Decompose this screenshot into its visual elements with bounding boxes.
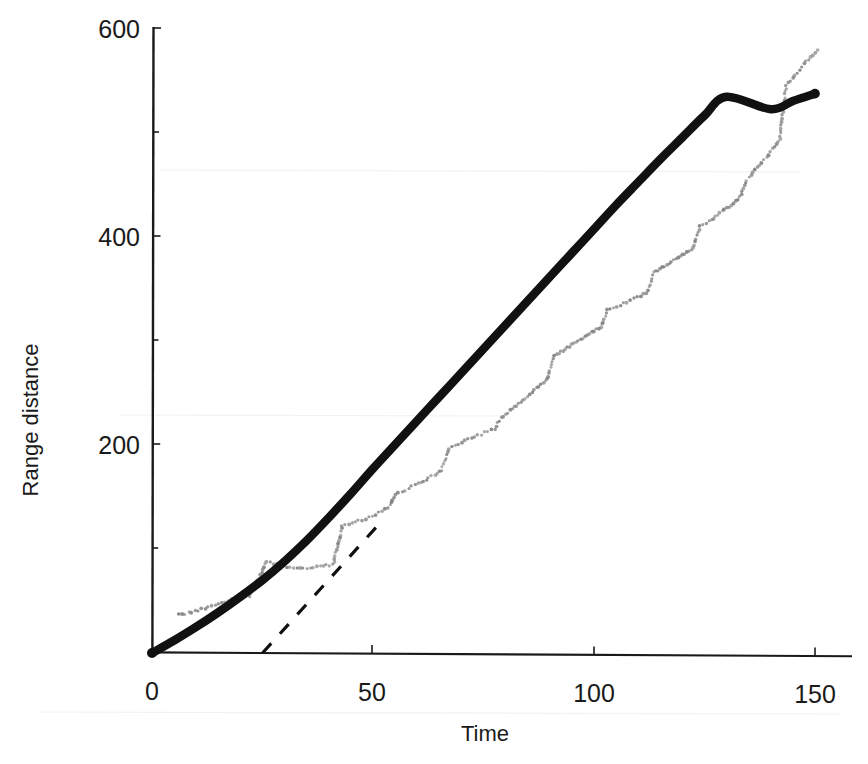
scan-artifact-line <box>40 712 840 714</box>
data-point-marker <box>784 97 787 100</box>
data-point-marker <box>466 437 469 440</box>
x-tick-label-150: 150 <box>794 680 836 708</box>
data-point-marker <box>514 404 518 408</box>
data-point-marker <box>687 250 690 253</box>
data-point-marker <box>779 126 782 129</box>
data-point-marker <box>324 563 327 566</box>
data-point-marker <box>506 412 509 415</box>
scan-artifact-line <box>120 415 500 416</box>
data-point-marker <box>753 168 757 172</box>
data-point-marker <box>796 72 799 75</box>
data-point-marker <box>766 153 770 157</box>
data-point-marker <box>605 308 609 312</box>
data-point-marker <box>705 222 708 225</box>
fitted-range-curve <box>152 94 815 653</box>
x-tick-label-50: 50 <box>358 678 386 706</box>
data-point-marker <box>475 433 479 437</box>
data-point-marker <box>463 438 467 442</box>
y-axis <box>152 27 161 654</box>
data-point-marker <box>445 457 448 460</box>
data-point-marker <box>602 317 606 321</box>
data-point-marker <box>403 489 407 493</box>
data-point-marker <box>440 469 443 472</box>
data-point-marker <box>306 567 309 570</box>
data-point-marker <box>337 539 341 543</box>
y-tick-label-600: 600 <box>98 15 140 43</box>
data-point-marker <box>632 296 635 299</box>
data-point-marker <box>426 476 429 479</box>
data-point-marker <box>483 430 486 433</box>
data-point-marker <box>736 198 740 202</box>
data-point-marker <box>447 447 451 451</box>
chart-figure: 600 400 200 0 50 100 150 Time Range dist… <box>0 0 868 764</box>
data-point-marker <box>651 274 654 277</box>
data-point-marker <box>374 513 378 517</box>
data-point-marker <box>421 480 425 484</box>
data-point-marker <box>356 518 359 521</box>
data-point-marker <box>550 360 553 363</box>
data-point-marker <box>264 560 268 564</box>
data-point-marker <box>340 524 343 527</box>
data-point-marker <box>698 224 702 228</box>
range-distance-vs-time-chart: 600 400 200 0 50 100 150 Time Range dist… <box>0 0 868 764</box>
data-point-marker <box>604 315 607 318</box>
data-point-marker <box>217 602 220 605</box>
data-point-marker <box>669 260 673 264</box>
data-point-marker <box>692 243 696 247</box>
data-point-marker <box>612 306 615 309</box>
data-point-marker <box>377 510 380 513</box>
data-point-marker <box>214 604 217 607</box>
x-tick-label-100: 100 <box>573 679 615 707</box>
data-point-marker <box>473 435 477 439</box>
data-point-marker <box>605 311 608 314</box>
data-point-marker <box>780 117 784 121</box>
data-point-marker <box>199 606 203 610</box>
data-point-marker <box>785 87 788 90</box>
x-axis <box>152 645 852 656</box>
data-point-marker <box>550 363 553 366</box>
data-point-marker <box>371 515 374 518</box>
data-point-marker <box>383 507 387 511</box>
data-point-marker <box>328 564 331 567</box>
data-point-marker <box>649 283 652 286</box>
data-point-marker <box>262 565 266 569</box>
x-axis-line <box>152 652 852 656</box>
data-point-marker <box>532 388 536 392</box>
data-point-marker <box>792 74 796 78</box>
data-point-marker <box>367 515 370 518</box>
data-point-marker <box>288 565 292 569</box>
data-point-marker <box>335 548 339 552</box>
data-point-marker <box>768 150 772 154</box>
data-point-marker <box>576 339 579 342</box>
data-point-marker <box>548 369 551 372</box>
y-tick-label-200: 200 <box>98 431 140 459</box>
x-tick-label-0: 0 <box>145 677 159 705</box>
data-point-marker <box>694 238 697 241</box>
data-point-marker <box>816 48 820 52</box>
data-point-marker <box>789 79 792 82</box>
data-point-marker <box>619 304 622 307</box>
data-point-marker <box>628 298 632 302</box>
data-point-marker <box>672 258 675 261</box>
scan-artifact-group <box>40 170 840 714</box>
data-point-marker <box>501 415 505 419</box>
data-point-marker <box>495 425 499 429</box>
data-point-marker <box>177 612 181 616</box>
data-point-marker <box>292 566 296 570</box>
data-point-marker <box>440 465 443 468</box>
data-point-marker <box>347 522 351 526</box>
data-point-marker <box>740 192 744 196</box>
y-tick-label-400: 400 <box>98 223 140 251</box>
data-point-marker <box>183 613 186 616</box>
data-point-marker <box>396 491 400 495</box>
data-point-marker <box>784 84 788 88</box>
series-layer <box>147 48 820 658</box>
data-point-marker <box>210 604 214 608</box>
data-point-marker <box>490 428 494 432</box>
data-point-marker <box>625 301 629 305</box>
data-point-marker <box>386 506 389 509</box>
data-point-marker <box>454 444 457 447</box>
series-1 <box>147 89 820 658</box>
data-point-marker <box>351 521 355 525</box>
y-axis-title: Range distance <box>18 344 43 497</box>
